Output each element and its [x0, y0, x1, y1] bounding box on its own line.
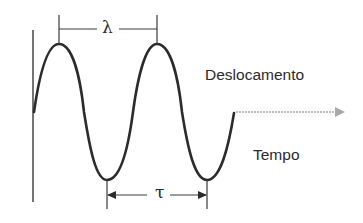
- wave-diagram: [0, 0, 363, 223]
- period-label: τ: [155, 182, 164, 202]
- wavelength-label: λ: [102, 17, 113, 37]
- displacement-label: Deslocamento: [205, 66, 304, 84]
- time-label: Tempo: [253, 146, 300, 164]
- sine-wave: [34, 44, 234, 180]
